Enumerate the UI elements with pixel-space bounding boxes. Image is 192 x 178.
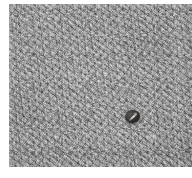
pale-speck-secondary <box>71 102 76 106</box>
photograph-plate <box>9 4 192 167</box>
margin-credit-area <box>0 138 12 178</box>
dark-elliptical-subject <box>124 109 141 124</box>
figure-root <box>0 0 192 178</box>
pale-speck-primary <box>150 134 157 139</box>
surface-base-tone <box>9 4 192 167</box>
subject-glint <box>133 112 136 114</box>
